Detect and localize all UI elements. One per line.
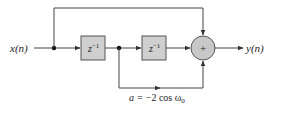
output-label: y(n) <box>245 42 264 55</box>
coef-path-up <box>158 61 203 88</box>
delay-block-1: z−1 <box>81 36 105 60</box>
delay-block-2: z−1 <box>142 36 166 60</box>
block-diagram: x(n) z−1 z−1 + y(n) a = −2 cos ω0 <box>0 0 282 113</box>
top-forward-path <box>54 8 203 48</box>
plus-icon: + <box>200 42 206 54</box>
input-label: x(n) <box>9 42 28 55</box>
adder-node: + <box>191 36 215 60</box>
coefficient-label: a = −2 cos ω0 <box>129 92 185 105</box>
